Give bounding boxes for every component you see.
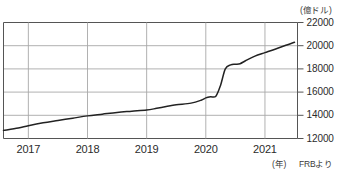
y-axis-tick-marks [298,23,304,139]
xtick-label-2021: 2021 [242,143,288,155]
ytick-label-18000: 18000 [307,63,334,74]
y-axis-unit-label: (億ドル) [300,3,332,15]
xtick-label-2020: 2020 [183,143,229,155]
xtick-label-2017: 2017 [5,143,51,155]
horizontal-gridlines [4,23,298,139]
x-axis-unit-label: (年) [272,157,286,169]
chart-container: (億ドル) (年) FRBより 120001400016000180002000… [0,0,342,174]
data-series-line [4,42,295,130]
ytick-label-16000: 16000 [307,86,334,97]
vertical-gridlines [28,23,265,139]
axis-lines [4,23,298,139]
ytick-label-20000: 20000 [307,40,334,51]
xtick-label-2018: 2018 [65,143,111,155]
xtick-label-2019: 2019 [124,143,170,155]
ytick-label-14000: 14000 [307,109,334,120]
source-note: FRBより [299,157,333,169]
ytick-label-22000: 22000 [307,17,334,28]
ytick-label-12000: 12000 [307,133,334,144]
